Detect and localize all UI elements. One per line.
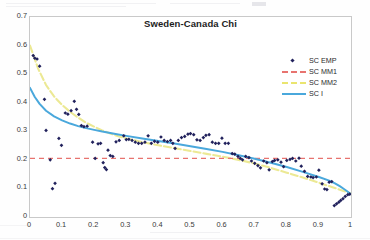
data-point [297, 156, 301, 160]
data-point [204, 133, 208, 137]
data-point [267, 168, 271, 172]
y-tick-label: 0.3 [1, 126, 27, 133]
scan-artifact [6, 3, 156, 4]
data-point [51, 187, 55, 191]
legend-item-sc-emp[interactable]: SC EMP [281, 55, 347, 66]
data-point [207, 133, 211, 137]
data-point [146, 134, 150, 138]
data-point [183, 135, 187, 139]
y-tick-label: 0.2 [1, 155, 27, 162]
x-tick-label: 0.9 [306, 221, 330, 228]
chart-title: Sweden-Canada Chi [29, 18, 352, 29]
data-point [99, 141, 103, 145]
data-point [285, 159, 289, 163]
legend-item-sc-mm2[interactable]: SC MM2 [281, 77, 347, 88]
y-axis-tick-labels: 00.10.20.30.40.50.60.7 [0, 0, 27, 240]
legend-key-icon [281, 56, 307, 65]
legend-key-icon [281, 89, 307, 98]
y-tick-label: 0.1 [1, 183, 27, 190]
legend-item-label: SC EMP [307, 57, 337, 64]
scan-artifact [170, 3, 240, 4]
data-point [72, 99, 76, 103]
data-point [43, 97, 47, 101]
x-tick-label: 0.6 [210, 221, 234, 228]
data-point [198, 139, 202, 143]
data-point [93, 157, 97, 161]
solid-line-icon [282, 93, 306, 95]
x-tick-label: 0.1 [49, 221, 73, 228]
data-point [44, 129, 48, 133]
data-point [259, 166, 263, 170]
data-point [192, 133, 196, 137]
data-point [195, 138, 199, 142]
scan-artifact [0, 238, 370, 239]
data-point [171, 141, 175, 145]
data-point [159, 135, 163, 139]
legend-item-label: SC I [307, 90, 323, 97]
data-point [75, 107, 79, 111]
x-tick-label: 1 [338, 221, 362, 228]
x-axis-tick-labels: 00.10.20.30.40.50.60.70.80.91 [0, 221, 370, 235]
legend-key-icon [281, 78, 307, 87]
data-point [279, 160, 283, 164]
data-point [220, 136, 224, 140]
chart-canvas [30, 17, 351, 217]
legend-key-icon [281, 67, 307, 76]
data-point [317, 168, 321, 172]
data-point [101, 161, 105, 165]
dashed-line-icon [282, 82, 306, 84]
y-tick-label: 0.7 [1, 12, 27, 19]
x-tick-label: 0.8 [274, 221, 298, 228]
scan-artifact [252, 2, 266, 6]
dashed-line-icon [282, 71, 306, 73]
y-tick-label: 0.4 [1, 98, 27, 105]
legend-item-label: SC MM1 [307, 68, 337, 75]
x-tick-label: 0 [17, 221, 41, 228]
chart-legend: SC EMPSC MM1SC MM2SC I [281, 55, 347, 99]
data-point [227, 141, 231, 145]
chart-page: 00.10.20.30.40.50.60.7 00.10.20.30.40.50… [0, 0, 370, 240]
data-point [60, 143, 64, 147]
data-point [91, 140, 95, 144]
y-tick-label: 0 [1, 212, 27, 219]
y-tick-label: 0.6 [1, 41, 27, 48]
data-point [69, 109, 73, 113]
x-tick-label: 0.7 [242, 221, 266, 228]
data-point [223, 141, 227, 145]
data-point [114, 140, 118, 144]
data-point [180, 136, 184, 140]
data-point [294, 159, 298, 163]
legend-item-label: SC MM2 [307, 79, 337, 86]
x-tick-label: 0.2 [81, 221, 105, 228]
data-point [106, 148, 110, 152]
data-point [299, 164, 303, 168]
data-point [169, 139, 173, 143]
data-point [77, 113, 81, 117]
diamond-marker-icon [290, 58, 294, 62]
data-point [201, 136, 205, 140]
x-tick-label: 0.5 [178, 221, 202, 228]
data-point [210, 140, 214, 144]
data-point [53, 181, 57, 185]
data-point [217, 141, 221, 145]
legend-item-sc-mm1[interactable]: SC MM1 [281, 66, 347, 77]
legend-item-sc-i[interactable]: SC I [281, 88, 347, 99]
y-tick-label: 0.5 [1, 69, 27, 76]
plot-area [29, 16, 352, 218]
data-point [176, 139, 180, 143]
x-tick-label: 0.3 [113, 221, 137, 228]
data-point [117, 139, 121, 143]
data-point [57, 137, 61, 141]
data-point [189, 132, 193, 136]
data-point [214, 141, 218, 145]
x-tick-label: 0.4 [145, 221, 169, 228]
